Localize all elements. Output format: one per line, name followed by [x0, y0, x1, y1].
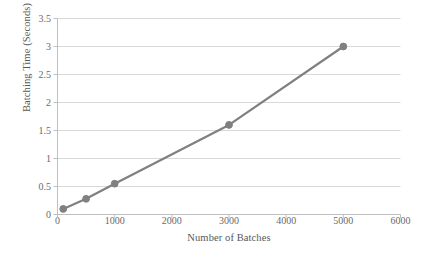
- line-chart: Batching Time (Seconds) Number of Batche…: [0, 0, 425, 254]
- data-line: [63, 47, 343, 209]
- data-point: [83, 195, 90, 202]
- axis-lines: [58, 19, 401, 215]
- plot-area: [0, 0, 425, 254]
- data-point: [111, 180, 118, 187]
- data-point: [226, 122, 233, 129]
- grid-lines: [58, 19, 401, 215]
- data-point: [60, 206, 67, 213]
- series-line-batching-time: [63, 47, 343, 209]
- data-point: [340, 43, 347, 50]
